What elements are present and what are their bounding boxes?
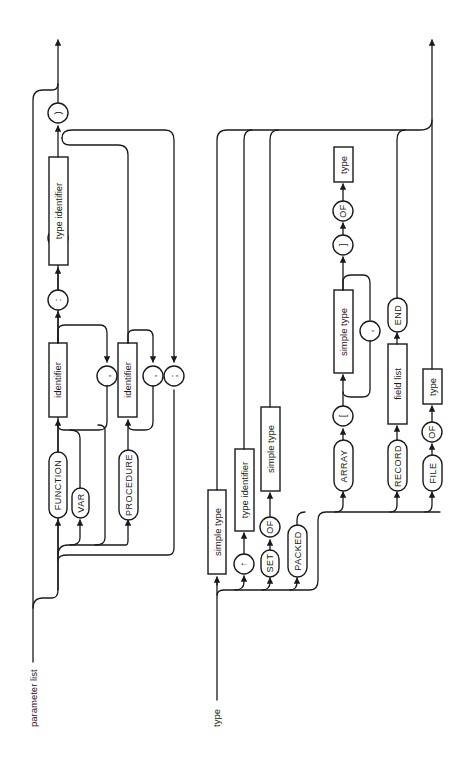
field-list-label: field list (392, 368, 403, 400)
record-label: RECORD (393, 445, 403, 487)
simple-type-array-label: simple type (338, 308, 349, 356)
parameter-list-title: parameter list (28, 669, 39, 727)
array-comma-label: , (364, 330, 375, 333)
simple-type-set-label: simple type (265, 425, 276, 473)
colon-terminal: : (48, 290, 68, 310)
file-keyword: FILE (423, 455, 442, 491)
semicolon-terminal: ; (164, 366, 184, 386)
param-branch-var (70, 520, 80, 545)
var-keyword: VAR (72, 488, 89, 518)
close-bracket-terminal: ] (333, 235, 353, 255)
end-label: END (393, 305, 403, 326)
array-of-keyword: OF (333, 201, 353, 221)
pointer-label: ↑ (238, 562, 249, 567)
packed-label: PACKED (293, 531, 303, 570)
open-bracket-label: [ (337, 414, 348, 417)
set-label: SET (265, 553, 275, 572)
parameter-list-diagram: parameter list ( FUNCTION (28, 40, 184, 727)
comma-terminal-1: , (97, 366, 117, 386)
array-element-type-box: type (334, 147, 353, 182)
simple-type-1-label: simple type (212, 508, 223, 556)
set-keyword: SET (261, 550, 279, 577)
set-exit (270, 130, 278, 407)
procedure-to-close-paren (62, 138, 128, 343)
file-element-type-label: type (427, 378, 438, 396)
semicolon-label: ; (168, 375, 179, 378)
close-bracket-label: ] (337, 244, 348, 247)
semicolon-loop-top (62, 130, 174, 362)
type-identifier-exit (244, 130, 252, 449)
file-label: FILE (428, 462, 438, 483)
type-identifier-box-2: type identifier (235, 449, 254, 531)
type-identifier-label: type identifier (53, 183, 64, 240)
identifier-2-label: identifier (122, 362, 133, 398)
function-label: FUNCTION (53, 460, 63, 511)
close-paren-terminal: ) (48, 103, 68, 123)
procedure-label: PROCEDURE (124, 454, 134, 516)
record-exit (397, 130, 405, 298)
comma-1-label: , (101, 375, 112, 378)
procedure-keyword: PROCEDURE (119, 450, 138, 520)
open-bracket-terminal: [ (333, 406, 353, 426)
identifier-1-label: identifier (52, 362, 63, 398)
file-of-keyword: OF (422, 422, 442, 442)
file-element-type-box: type (423, 369, 442, 404)
type-title: type (211, 709, 222, 727)
syntax-diagram-canvas: parameter list ( FUNCTION (0, 0, 470, 770)
pointer-terminal: ↑ (234, 554, 254, 574)
var-label: VAR (76, 493, 86, 512)
set-of-keyword: OF (260, 517, 280, 537)
identifier-box-2: identifier (118, 343, 137, 417)
simple-type-box-set: simple type (261, 407, 280, 491)
array-label: ARRAY (339, 450, 349, 483)
array-of-label: OF (338, 204, 348, 218)
comma-terminal-2: , (143, 366, 163, 386)
param-branch-bypass-var (95, 425, 105, 545)
identifier-box-1: identifier (49, 343, 67, 417)
type-diagram: type simple type ↑ type identifier SET (208, 40, 442, 727)
type-type-identifier-label: type identifier (239, 462, 250, 519)
file-of-label: OF (427, 425, 437, 439)
param-branch-procedure (58, 520, 128, 555)
function-keyword: FUNCTION (49, 452, 67, 518)
comma-2-label: , (147, 375, 158, 378)
simple-type-box-array: simple type (334, 290, 353, 373)
colon-label: : (52, 299, 63, 302)
comma-loop-1-bottom (70, 386, 107, 430)
param-loop-back-semicolon (58, 390, 174, 560)
simple-type-box-1: simple type (208, 490, 226, 574)
array-element-type-label: type (338, 156, 349, 174)
record-keyword: RECORD (388, 440, 407, 491)
packed-keyword: PACKED (288, 525, 307, 577)
end-keyword: END (388, 298, 407, 332)
array-keyword: ARRAY (334, 440, 353, 491)
type-identifier-box: type identifier (49, 157, 68, 265)
close-paren-label: ) (52, 111, 63, 114)
set-of-label: OF (265, 520, 275, 534)
packed-to-branch (297, 512, 305, 525)
field-list-box: field list (388, 344, 407, 424)
array-comma-terminal: , (360, 321, 380, 341)
